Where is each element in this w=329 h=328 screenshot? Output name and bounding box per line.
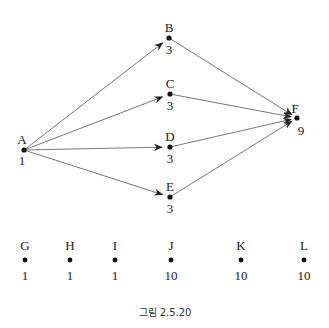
figure-caption: 그림 2.5.20 (139, 307, 192, 318)
isolated-node-k: K10 (235, 238, 248, 283)
node-value: 1 (112, 268, 119, 283)
node-value: 3 (166, 42, 173, 57)
network-diagram: A1B3C3D3E3F9 G1H1I1J10K10L10 그림 2.5.20 (0, 0, 329, 328)
node-dot (68, 258, 73, 263)
edge-a-b (24, 43, 163, 150)
node-dot (169, 258, 174, 263)
node-dot (239, 258, 244, 263)
node-value: 10 (298, 268, 311, 283)
node-dot (167, 91, 172, 96)
node-dot (113, 258, 118, 263)
node-value: 9 (298, 123, 305, 138)
edge-b-f (169, 38, 292, 115)
node-value: 1 (19, 153, 26, 168)
isolated-node-l: L10 (298, 238, 311, 283)
node-value: 1 (67, 268, 74, 283)
node-a: A1 (17, 132, 27, 168)
node-dot (21, 147, 26, 152)
edges-group (24, 38, 292, 197)
node-dot (302, 258, 307, 263)
node-value: 1 (22, 268, 29, 283)
edge-a-e (24, 150, 162, 195)
edge-a-c (24, 97, 163, 150)
node-dot (23, 258, 28, 263)
node-value: 10 (235, 268, 248, 283)
node-b: B3 (165, 20, 174, 57)
node-label: B (165, 20, 174, 35)
node-dot (167, 194, 172, 199)
node-label: E (166, 179, 174, 194)
node-d: D3 (165, 129, 174, 166)
edge-e-f (170, 121, 292, 197)
node-label: G (20, 238, 29, 253)
isolated-node-j: J10 (165, 238, 178, 283)
edge-c-f (170, 94, 291, 117)
node-label: A (17, 132, 27, 147)
node-value: 10 (165, 268, 178, 283)
node-label: H (65, 238, 74, 253)
edge-a-d (24, 147, 162, 150)
node-label: I (113, 238, 117, 253)
isolated-node-h: H1 (65, 238, 74, 283)
nodes-group: A1B3C3D3E3F9 (17, 20, 304, 216)
node-label: C (166, 76, 175, 91)
node-dot (167, 144, 172, 149)
node-value: 3 (167, 151, 174, 166)
isolated-node-g: G1 (20, 238, 29, 283)
isolated-nodes-group: G1H1I1J10K10L10 (20, 238, 310, 283)
node-label: L (300, 238, 308, 253)
node-label: F (291, 101, 298, 116)
node-label: J (168, 238, 173, 253)
node-dot (166, 35, 171, 40)
node-dot (294, 115, 299, 120)
isolated-node-i: I1 (112, 238, 119, 283)
node-e: E3 (166, 179, 174, 216)
node-value: 3 (167, 98, 174, 113)
node-label: D (165, 129, 174, 144)
node-value: 3 (167, 201, 174, 216)
node-f: F9 (291, 101, 304, 138)
node-label: K (236, 238, 246, 253)
